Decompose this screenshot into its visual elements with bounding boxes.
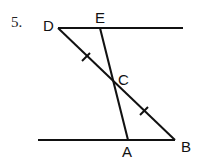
segment-db — [58, 28, 175, 140]
geometry-diagram: 5. D E C A B — [0, 0, 201, 167]
label-e: E — [95, 9, 105, 26]
label-a: A — [122, 143, 132, 160]
label-b: B — [181, 138, 191, 155]
problem-number: 5. — [11, 14, 22, 30]
label-c: C — [118, 71, 129, 88]
label-d: D — [43, 17, 54, 34]
